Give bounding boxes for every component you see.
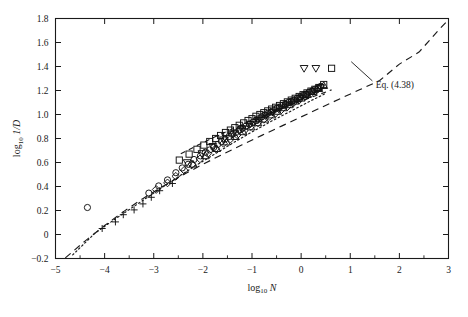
x-tick-label: 2 [397,265,402,275]
plot-frame [56,19,449,259]
scatter-plot-svg: −5−4−3−2−10123 −0.200.20.40.60.81.01.21.… [0,0,468,317]
x-tick-label: 0 [299,265,304,275]
x-axis-ticks [56,19,449,259]
marker-circle [84,204,90,210]
y-tick-label: 1.2 [37,86,49,96]
y-tick-label: 1.6 [37,38,49,48]
x-tick-label: −1 [247,265,257,275]
x-tick-label: −3 [149,265,159,275]
svg-text:log10N: log10N [248,282,278,296]
marker-inverted-triangle [312,66,320,73]
marker-square [176,157,182,163]
marker-square [328,65,334,71]
axes-rectangle [56,19,449,259]
marker-square [194,146,200,152]
y-tick-label: 0 [44,230,49,240]
fitted-curves [65,20,448,258]
y-tick-label: 0.2 [37,206,49,216]
x-axis-label: log10N [248,282,278,296]
x-tick-label: 1 [348,265,353,275]
svg-text:log101/D: log101/D [11,119,25,157]
plus-markers [99,180,176,232]
x-tick-label: 3 [446,265,451,275]
eq-annotation: Eq. (4.38) [376,80,414,91]
y-tick-label: 0.8 [37,134,49,144]
y-tick-label: 0.4 [37,182,49,192]
outlier-markers [312,65,335,72]
marker-square [201,142,207,148]
x-tick-label: −5 [50,265,60,275]
marker-plus [139,200,146,207]
y-tick-label: 1.0 [37,110,49,120]
y-tick-label: −0.2 [31,254,48,264]
x-tick-label: −4 [100,265,110,275]
annotations: Eq. (4.38) [351,62,414,91]
marker-circle [164,177,170,183]
y-axis-tick-labels: −0.200.20.40.60.81.01.21.41.61.8 [31,14,48,264]
eq-4-38-line [65,20,448,258]
marker-inverted-triangle [300,66,308,73]
dotted-curve [73,94,326,255]
figure-container: −5−4−3−2−10123 −0.200.20.40.60.81.01.21.… [0,0,468,317]
marker-circle [146,190,152,196]
x-tick-label: −2 [198,265,208,275]
annotation-leader-line [351,62,372,81]
marker-square [186,151,192,157]
y-tick-label: 1.8 [37,14,49,24]
data-points [84,65,334,232]
y-axis-label: log101/D [11,119,25,157]
y-tick-label: 1.4 [37,62,49,72]
x-axis-tick-labels: −5−4−3−2−10123 [50,265,451,275]
y-tick-label: 0.6 [37,158,49,168]
y-axis-ticks [56,19,449,259]
